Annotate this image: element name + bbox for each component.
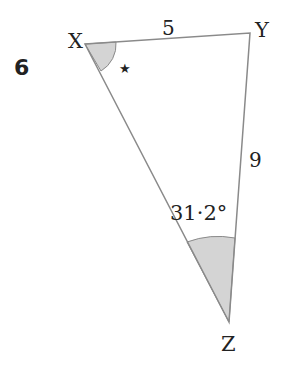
question-number: 6 bbox=[14, 55, 29, 80]
side-yz-length: 9 bbox=[249, 148, 262, 172]
star-icon: ★ bbox=[119, 61, 131, 76]
side-xy-length: 5 bbox=[162, 16, 175, 40]
vertex-z-label: Z bbox=[221, 332, 236, 356]
vertex-x-label: X bbox=[68, 29, 83, 53]
vertex-y-label: Y bbox=[254, 18, 270, 42]
angle-z-label: 31·2° bbox=[170, 201, 227, 225]
angle-z-shading bbox=[187, 236, 235, 322]
angle-x-shading bbox=[85, 42, 116, 71]
triangle-diagram: 6 X Y Z 5 9 31·2° ★ bbox=[0, 0, 282, 367]
